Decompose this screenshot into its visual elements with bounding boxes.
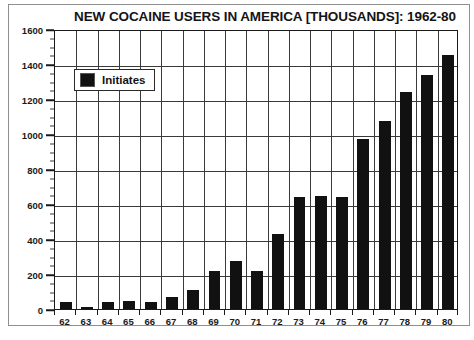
x-axis-tick xyxy=(373,310,374,315)
chart-legend: Initiates xyxy=(74,69,155,91)
bar xyxy=(145,302,157,309)
bar xyxy=(421,75,433,310)
x-axis-tick-label: 80 xyxy=(442,316,453,327)
y-axis-tick-major xyxy=(46,64,54,66)
x-axis-tick-label: 73 xyxy=(293,316,304,327)
x-axis-tick xyxy=(182,310,183,315)
bar xyxy=(379,121,391,309)
y-axis-tick-label: 400 xyxy=(27,235,43,246)
page-frame: NEW COCAINE USERS IN AMERICA [THOUSANDS]… xyxy=(8,4,470,326)
y-axis-tick-label: 1400 xyxy=(22,60,43,71)
x-axis-tick xyxy=(224,310,225,315)
x-axis-tick xyxy=(415,310,416,315)
x-axis-tick-label: 71 xyxy=(251,316,262,327)
bar xyxy=(123,301,135,309)
y-axis-tick-label: 1600 xyxy=(22,25,43,36)
x-axis-tick-label: 74 xyxy=(314,316,325,327)
x-axis-tick xyxy=(75,310,76,315)
y-axis-tick-major xyxy=(46,134,54,136)
y-axis-tick-major xyxy=(46,204,54,206)
bar xyxy=(294,197,306,309)
bar xyxy=(400,92,412,309)
x-axis-tick-label: 68 xyxy=(187,316,198,327)
x-axis-tick xyxy=(139,310,140,315)
x-axis-tick-label: 62 xyxy=(59,316,70,327)
y-axis-tick-major xyxy=(46,169,54,171)
y-axis-tick-label: 0 xyxy=(38,305,43,316)
bar xyxy=(209,271,221,309)
y-axis-tick-label: 200 xyxy=(27,270,43,281)
bar xyxy=(166,297,178,309)
bar xyxy=(251,271,263,310)
x-axis-tick xyxy=(54,310,55,315)
x-axis-tick-label: 67 xyxy=(166,316,177,327)
bar xyxy=(315,196,327,309)
x-axis-tick-label: 66 xyxy=(144,316,155,327)
x-axis-tick xyxy=(394,310,395,315)
x-axis-tick xyxy=(267,310,268,315)
x-axis-tick-label: 72 xyxy=(272,316,283,327)
x-axis-tick xyxy=(330,310,331,315)
bar xyxy=(81,307,93,309)
x-axis-tick xyxy=(97,310,98,315)
chart-title: NEW COCAINE USERS IN AMERICA [THOUSANDS]… xyxy=(55,9,474,24)
figure-caption xyxy=(10,331,310,340)
x-axis-tick xyxy=(160,310,161,315)
bar xyxy=(187,290,199,309)
x-axis: 62636465666768697071727374757677787980 xyxy=(54,310,458,332)
y-axis: 02004006008001000120014001600 xyxy=(9,30,54,310)
x-axis-tick-label: 77 xyxy=(378,316,389,327)
x-axis-tick-label: 79 xyxy=(421,316,432,327)
x-axis-tick xyxy=(309,310,310,315)
x-axis-tick-label: 64 xyxy=(102,316,113,327)
legend-swatch-icon xyxy=(80,73,95,87)
x-axis-tick xyxy=(457,310,458,315)
bar xyxy=(60,302,72,309)
bar xyxy=(272,234,284,309)
x-axis-tick-label: 69 xyxy=(208,316,219,327)
bar xyxy=(102,302,114,309)
y-axis-tick-major xyxy=(46,309,54,311)
y-axis-tick-major xyxy=(46,239,54,241)
legend-label: Initiates xyxy=(102,74,145,86)
bar xyxy=(357,139,369,309)
bar xyxy=(336,197,348,309)
y-axis-tick-label: 600 xyxy=(27,200,43,211)
y-axis-tick-label: 1000 xyxy=(22,130,43,141)
x-axis-tick-label: 75 xyxy=(336,316,347,327)
y-axis-tick-label: 1200 xyxy=(22,95,43,106)
y-axis-tick-major xyxy=(46,99,54,101)
bar xyxy=(442,55,454,309)
x-axis-tick-label: 65 xyxy=(123,316,134,327)
y-axis-tick-major xyxy=(46,29,54,31)
x-axis-tick-label: 63 xyxy=(81,316,92,327)
x-axis-tick xyxy=(352,310,353,315)
x-axis-tick xyxy=(203,310,204,315)
x-axis-tick xyxy=(437,310,438,315)
x-axis-tick-label: 78 xyxy=(400,316,411,327)
x-axis-tick xyxy=(288,310,289,315)
y-axis-tick-label: 800 xyxy=(27,165,43,176)
x-axis-tick xyxy=(245,310,246,315)
x-axis-tick xyxy=(118,310,119,315)
x-axis-tick-label: 76 xyxy=(357,316,368,327)
x-axis-tick-label: 70 xyxy=(229,316,240,327)
bar xyxy=(230,261,242,309)
y-axis-tick-major xyxy=(46,274,54,276)
